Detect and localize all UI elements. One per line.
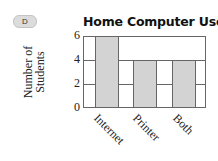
y-tick-6: 6: [70, 29, 80, 41]
y-tick-2: 2: [70, 77, 80, 89]
bar-printer: [133, 60, 157, 107]
y-axis-label-line-2: Students: [34, 46, 46, 98]
y-tick-0: 0: [70, 101, 80, 113]
chart-title: Home Computer Use: [83, 14, 218, 29]
y-tick-4: 4: [70, 53, 80, 65]
bar-internet: [95, 36, 119, 107]
y-axis-label: Number of Students: [22, 46, 46, 98]
x-label-printer: Printer: [129, 111, 163, 145]
x-label-both: Both: [169, 111, 196, 138]
bar-both: [172, 60, 196, 107]
x-label-internet: Internet: [90, 111, 127, 148]
plot-area: [83, 36, 206, 108]
answer-choice-badge[interactable]: D: [13, 15, 37, 28]
